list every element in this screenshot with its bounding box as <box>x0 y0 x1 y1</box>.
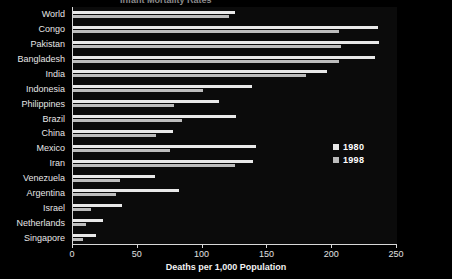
bar-1998 <box>73 208 91 211</box>
legend-swatch-1998-icon <box>333 157 339 163</box>
x-tick-label: 0 <box>69 249 74 259</box>
bar-group-bars <box>73 230 397 241</box>
bar-1998 <box>73 104 174 107</box>
bar-group-bars <box>73 96 397 107</box>
legend-label-1998: 1998 <box>343 155 364 165</box>
x-tick-label: 100 <box>194 249 209 259</box>
x-tick <box>137 245 138 248</box>
bar-spacer <box>73 178 397 179</box>
x-tick-label: 50 <box>132 249 142 259</box>
bar-group-bars <box>73 67 397 78</box>
bar-spacer <box>73 192 397 193</box>
bar-group-bars <box>73 200 397 211</box>
bar-spacer <box>73 222 397 223</box>
x-tick <box>331 245 332 248</box>
x-tick-label: 150 <box>259 249 274 259</box>
bar-1998 <box>73 164 235 167</box>
x-tick <box>266 245 267 248</box>
bar-group-bars <box>73 37 397 48</box>
legend-swatch-1980-icon <box>333 144 339 150</box>
bar-group <box>73 111 397 126</box>
legend-item-1998: 1998 <box>333 153 395 166</box>
bar-1998 <box>73 30 339 33</box>
y-axis-label-iran: Iran <box>49 158 65 168</box>
y-axis-label-venezuela: Venezuela <box>23 173 65 183</box>
y-axis-label-china: China <box>41 128 65 138</box>
y-axis-label-singapore: Singapore <box>24 233 65 243</box>
plot-area <box>72 7 397 245</box>
chart-container: Infant Mortality Rates WorldCongoPakista… <box>0 0 452 279</box>
bar-1998 <box>73 89 203 92</box>
bar-group-bars <box>73 111 397 122</box>
bar-group <box>73 126 397 141</box>
x-tick-label: 250 <box>388 249 403 259</box>
x-tick <box>72 245 73 248</box>
y-axis-label-indonesia: Indonesia <box>26 84 65 94</box>
bar-group <box>73 22 397 37</box>
chart-legend: 1980 1998 <box>333 140 395 166</box>
x-tick <box>396 245 397 248</box>
y-axis-label-bangladesh: Bangladesh <box>17 54 65 64</box>
y-axis-label-world: World <box>42 9 65 19</box>
bar-1998 <box>73 45 341 48</box>
bar-1998 <box>73 134 156 137</box>
bar-1998 <box>73 238 83 241</box>
bar-group <box>73 37 397 52</box>
y-axis-labels: WorldCongoPakistanBangladeshIndiaIndones… <box>0 7 69 245</box>
y-axis-label-israel: Israel <box>43 203 65 213</box>
bar-group <box>73 81 397 96</box>
bar-1998 <box>73 15 229 18</box>
chart-title: Infant Mortality Rates <box>120 0 212 5</box>
y-axis-label-brazil: Brazil <box>42 114 65 124</box>
bar-group <box>73 186 397 201</box>
bar-group <box>73 171 397 186</box>
bar-group-bars <box>73 126 397 137</box>
bar-group <box>73 67 397 82</box>
x-axis-title: Deaths per 1,000 Population <box>0 262 452 272</box>
bar-group-bars <box>73 7 397 18</box>
bar-spacer <box>73 237 397 238</box>
y-axis-label-pakistan: Pakistan <box>30 39 65 49</box>
y-axis-label-argentina: Argentina <box>26 188 65 198</box>
bar-group <box>73 200 397 215</box>
bar-group <box>73 7 397 22</box>
bar-1998 <box>73 119 182 122</box>
bar-group-bars <box>73 171 397 182</box>
bar-group-bars <box>73 22 397 33</box>
bar-1998 <box>73 149 170 152</box>
y-axis-label-india: India <box>45 69 65 79</box>
bar-1998 <box>73 223 86 226</box>
bar-group <box>73 230 397 245</box>
bar-1998 <box>73 179 120 182</box>
bar-group <box>73 52 397 67</box>
x-tick-label: 200 <box>324 249 339 259</box>
bar-group <box>73 215 397 230</box>
legend-item-1980: 1980 <box>333 140 395 153</box>
x-tick <box>202 245 203 248</box>
bar-group-bars <box>73 215 397 226</box>
bar-1998 <box>73 60 339 63</box>
chart-title-strip: Infant Mortality Rates <box>0 0 452 7</box>
bar-1998 <box>73 193 116 196</box>
y-axis-label-congo: Congo <box>38 24 65 34</box>
y-axis-label-netherlands: Netherlands <box>16 218 65 228</box>
y-axis-label-mexico: Mexico <box>36 143 65 153</box>
bar-group-bars <box>73 81 397 92</box>
y-axis-label-philippines: Philippines <box>21 99 65 109</box>
legend-label-1980: 1980 <box>343 142 364 152</box>
x-axis: 050100150200250 <box>72 245 397 261</box>
bar-1998 <box>73 74 306 77</box>
bar-spacer <box>73 207 397 208</box>
bar-group-bars <box>73 52 397 63</box>
bar-group <box>73 96 397 111</box>
bar-group-bars <box>73 186 397 197</box>
